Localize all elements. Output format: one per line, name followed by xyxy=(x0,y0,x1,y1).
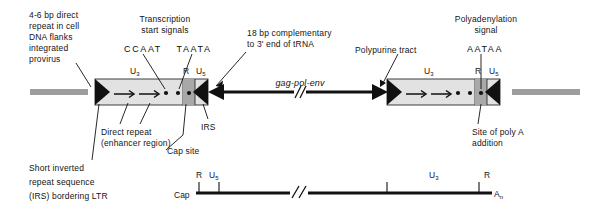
leader-polypurine-arrowhead xyxy=(380,80,386,88)
leader-direct-repeat-a xyxy=(120,103,128,124)
leader-poly-a-site xyxy=(478,104,481,124)
leader-short-inverted xyxy=(92,104,99,160)
leader-direct-repeat-b xyxy=(140,103,150,124)
left-ltr-ccaat-dot xyxy=(164,91,168,95)
right-ltr-polya-dot xyxy=(479,91,483,95)
retroviral-ltr-diagram: 4-6 bp direct repeat in cell DNA flanks … xyxy=(0,0,600,212)
transcript-break-slashes xyxy=(290,186,308,198)
leader-irs xyxy=(203,104,208,119)
left-flank-dna-bar xyxy=(30,89,88,95)
left-ltr-cap-site-dot xyxy=(187,91,191,95)
leader-left-flank xyxy=(76,63,91,87)
leader-cap-site xyxy=(166,104,186,150)
leader-complementary xyxy=(216,52,246,86)
right-ltr-taata-dot xyxy=(468,91,472,95)
right-flank-dna-bar xyxy=(512,89,580,95)
diagram-graphics xyxy=(0,0,600,212)
left-ltr-taata-dot xyxy=(176,91,180,95)
right-ltr-ccaat-dot xyxy=(456,91,460,95)
